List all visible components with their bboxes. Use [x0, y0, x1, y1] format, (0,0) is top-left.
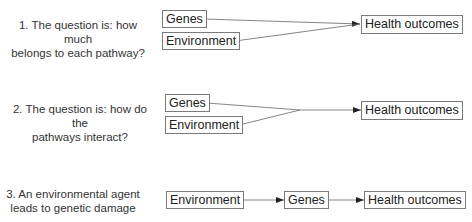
node-genes: Genes: [284, 191, 329, 209]
line-genes-to-junction: [207, 103, 300, 110]
question-2: 2. The question is: how do the pathways …: [6, 102, 154, 144]
line-environment-to-junction: [239, 110, 300, 125]
question-1: 1. The question is: how much belongs to …: [8, 18, 148, 60]
node-environment: Environment: [166, 191, 244, 209]
node-environment: Environment: [165, 116, 243, 134]
node-genes: Genes: [162, 10, 207, 28]
node-health-outcomes: Health outcomes: [364, 191, 466, 209]
node-health-outcomes: Health outcomes: [361, 15, 463, 34]
node-health-outcomes: Health outcomes: [361, 101, 463, 120]
question-3: 3. An environmental agent leads to genet…: [6, 187, 140, 215]
arrow-genes-to-outcome: [204, 19, 360, 24]
arrow-environment-to-outcome: [235, 24, 360, 41]
node-genes: Genes: [165, 94, 210, 112]
node-environment: Environment: [162, 32, 240, 50]
